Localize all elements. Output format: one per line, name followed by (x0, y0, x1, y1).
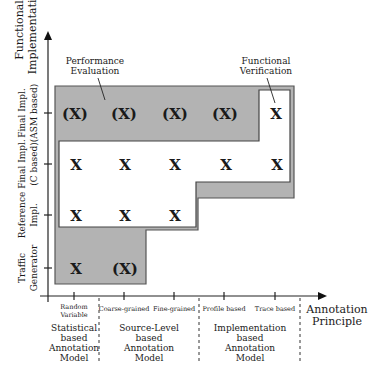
svg-text:Implementation: Implementation (214, 323, 287, 333)
x-tick-random-line2: Variable (59, 311, 87, 319)
annotation-diagram: Functional Implementation Final Impl. (A… (0, 0, 374, 377)
svg-text:X: X (119, 207, 131, 225)
svg-text:(X): (X) (111, 105, 137, 123)
y-tick-traffic-line1: Traffic (17, 253, 27, 283)
svg-text:X: X (220, 156, 232, 174)
callout-functional-line1: Functional (242, 56, 291, 66)
x-tick-fine: Fine-grained (153, 305, 195, 313)
x-tick-coarse: Coarse-grained (99, 305, 150, 313)
svg-text:X: X (70, 156, 82, 174)
group-statistical: Statistical based Annotation Model (48, 323, 99, 363)
y-tick-c-line2: (C based) (29, 142, 39, 186)
x-tick-trace: Trace based (255, 305, 295, 313)
svg-text:Statistical: Statistical (51, 323, 97, 333)
svg-text:Annotation: Annotation (224, 343, 275, 353)
svg-text:X: X (270, 105, 282, 123)
y-axis-title-line2: Implementation (26, 0, 39, 74)
svg-text:(X): (X) (62, 105, 88, 123)
svg-text:based: based (136, 333, 163, 343)
svg-text:(X): (X) (212, 105, 238, 123)
svg-text:X: X (119, 156, 131, 174)
callout-performance-line1: Performance (66, 56, 124, 66)
y-tick-traffic-line2: Generator (29, 244, 39, 291)
group-source-level: Source-Level based Annotation Model (119, 323, 179, 363)
svg-text:X: X (271, 156, 283, 174)
x-tick-profile: Profile based (202, 305, 245, 313)
x-axis-arrow-icon (318, 292, 327, 300)
y-tick-asm-line2: (ASM based) (29, 84, 39, 143)
y-axis-arrow-icon (44, 31, 52, 40)
y-axis-title-line1: Functional (13, 0, 26, 60)
svg-text:(X): (X) (112, 260, 138, 278)
callout-functional-line2: Verification (239, 66, 293, 76)
svg-text:X: X (70, 207, 82, 225)
svg-text:X: X (169, 207, 181, 225)
svg-text:X: X (169, 156, 181, 174)
x-axis-title-line2: Principle (312, 315, 362, 328)
svg-text:Annotation: Annotation (48, 343, 99, 353)
svg-text:based: based (61, 333, 88, 343)
y-tick-c-line1: Final Impl. (17, 139, 27, 189)
callout-performance-line2: Evaluation (71, 66, 120, 76)
svg-text:Annotation: Annotation (123, 343, 174, 353)
svg-text:Model: Model (60, 353, 89, 363)
svg-text:(X): (X) (162, 105, 188, 123)
svg-text:Source-Level: Source-Level (119, 323, 179, 333)
svg-text:X: X (70, 260, 82, 278)
y-tick-ref-line1: Reference (17, 192, 27, 239)
x-tick-random-line1: Random (60, 303, 87, 311)
group-implementation: Implementation based Annotation Model (214, 323, 287, 363)
svg-text:Model: Model (236, 353, 265, 363)
svg-text:Model: Model (135, 353, 164, 363)
y-tick-asm-line1: Final Impl. (17, 88, 27, 138)
svg-text:based: based (237, 333, 264, 343)
y-tick-ref-line2: Impl. (29, 203, 39, 227)
